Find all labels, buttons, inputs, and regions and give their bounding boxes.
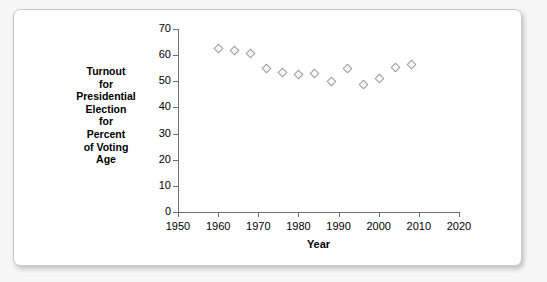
data-point-marker <box>278 67 288 77</box>
y-axis-title-line: Age <box>64 153 148 166</box>
data-point-marker <box>214 43 224 53</box>
data-point-marker <box>246 49 256 59</box>
y-axis-title-line: for <box>64 115 148 128</box>
data-point-marker <box>294 70 304 80</box>
chart-plot-area: 010203040506070 195019601970198019902000… <box>14 10 521 265</box>
y-axis-title-line: Presidential <box>64 90 148 103</box>
y-axis-title-line: Turnout <box>64 65 148 78</box>
y-axis-title-line: of Voting <box>64 141 148 154</box>
page-background: 010203040506070 195019601970198019902000… <box>0 0 547 282</box>
data-point-marker <box>406 59 416 69</box>
y-axis-title: TurnoutforPresidentialElectionforPercent… <box>64 65 148 166</box>
data-point-marker <box>262 63 272 73</box>
data-point-marker <box>390 63 400 73</box>
data-point-marker <box>326 77 336 87</box>
y-axis-title-line: Election <box>64 103 148 116</box>
chart-card: 010203040506070 195019601970198019902000… <box>13 9 522 266</box>
y-axis-title-line: Percent <box>64 128 148 141</box>
data-point-marker <box>358 79 368 89</box>
data-point-marker <box>230 46 240 56</box>
y-axis-title-line: for <box>64 78 148 91</box>
x-axis-title: Year <box>178 238 459 250</box>
data-point-marker <box>310 69 320 79</box>
data-point-marker <box>342 63 352 73</box>
data-point-marker <box>374 73 384 83</box>
